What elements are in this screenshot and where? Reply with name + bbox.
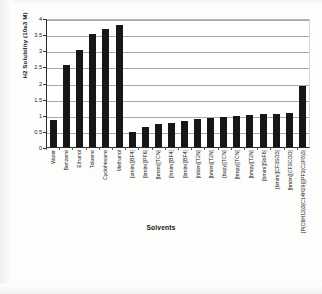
x-axis-tick-label: [bmim][TCN]: [155, 150, 161, 179]
x-axis-tick-mark: [152, 147, 153, 150]
bar: [207, 118, 214, 147]
bar: [63, 65, 70, 147]
bar-slot: [257, 20, 270, 147]
bar-slot: [230, 20, 243, 147]
bar: [260, 114, 267, 147]
x-axis-tick-mark: [165, 147, 166, 150]
x-axis-tick-label: [bmim][BF4]: [182, 150, 188, 178]
x-axis-tick-label: [omim][BF4]: [129, 150, 135, 178]
x-axis-tick-mark: [218, 147, 219, 150]
bar: [102, 29, 109, 147]
bar-slot: [126, 20, 139, 147]
bar: [286, 113, 293, 147]
x-axis-tick-mark: [72, 147, 73, 150]
plot-area: [46, 19, 310, 148]
x-axis-tick-label: Ethanol: [76, 150, 82, 168]
x-axis-tick-label: [hmim][BF4]: [168, 150, 174, 178]
x-axis-tick-label: [bupy][TCN]: [221, 150, 227, 178]
chart-figure: H2 Solubility (10e3 M) 00.511.522.533.54…: [0, 0, 322, 294]
x-axis-tick-mark: [244, 147, 245, 150]
bar: [246, 115, 253, 147]
bar-slot: [86, 20, 99, 147]
x-axis-tick-label: [P(C6H13)3(C14H29)][PF3(C2F5)3]: [300, 150, 306, 233]
bar: [155, 124, 162, 147]
x-axis-tick-label: [bmpy][T2N]: [248, 150, 254, 178]
y-axis-tick-label: 0.5: [20, 129, 42, 135]
bar-slot: [270, 20, 283, 147]
x-axis-tick-label: Water: [50, 150, 56, 164]
bar: [194, 119, 201, 147]
x-axis-tick-mark: [86, 147, 87, 150]
x-axis-tick-mark: [46, 147, 47, 150]
x-axis-tick-label: [mbim][T2N]: [195, 150, 201, 178]
bar: [50, 120, 57, 147]
bar: [181, 121, 188, 147]
bar-slot: [73, 20, 86, 147]
x-axis-tick-label: [bmim][CF3SO3]: [274, 150, 280, 189]
bar-slot: [139, 20, 152, 147]
y-axis-tick-label: 2.5: [20, 64, 42, 70]
bar: [220, 117, 227, 147]
y-axis-tick-label: 4: [20, 16, 42, 22]
bar-slot: [165, 20, 178, 147]
bar-slot: [112, 20, 125, 147]
x-axis-tick-mark: [257, 147, 258, 150]
x-axis-tick-label: Toluene: [89, 150, 95, 168]
bar-slot: [243, 20, 256, 147]
bar: [129, 132, 136, 147]
bar-slot: [217, 20, 230, 147]
y-axis-tick-label: 2: [20, 81, 42, 87]
x-axis-tick-label: Benzene: [63, 150, 69, 171]
x-axis-tick-mark: [297, 147, 298, 150]
bar: [273, 114, 280, 147]
x-axis-tick-mark: [112, 147, 113, 150]
x-axis-tick-mark: [125, 147, 126, 150]
x-axis-tick-mark: [99, 147, 100, 150]
bar-slot: [296, 20, 309, 147]
x-axis-tick-mark: [284, 147, 285, 150]
y-axis-tick-label: 1: [20, 113, 42, 119]
bar: [299, 86, 306, 147]
x-axis-tick-label: [bmim][T2N]: [208, 150, 214, 178]
x-axis-tick-mark: [178, 147, 179, 150]
bar: [116, 25, 123, 147]
x-axis-tick-label: Cyclohexane: [102, 150, 108, 180]
bar-slot: [47, 20, 60, 147]
bar-slot: [99, 20, 112, 147]
x-axis-tick-label: [bmim][PF6]: [142, 150, 148, 178]
y-axis-tick-label: 3.5: [20, 32, 42, 38]
bar-series: [47, 20, 309, 147]
x-axis-tick-label: [bmim][SbF6]: [261, 150, 267, 181]
x-axis-tick-mark: [270, 147, 271, 150]
y-axis-tick-label: 1.5: [20, 97, 42, 103]
bar: [76, 50, 83, 147]
x-axis-tick-label: [bmim][CF3COO]: [287, 150, 293, 190]
bar: [142, 127, 149, 147]
x-axis-title: Solvents: [0, 224, 322, 231]
x-axis-tick-mark: [204, 147, 205, 150]
x-axis-tick-label: Methanol: [116, 150, 122, 171]
bar-slot: [191, 20, 204, 147]
x-axis-tick-mark: [191, 147, 192, 150]
bar: [168, 123, 175, 147]
bar-slot: [283, 20, 296, 147]
bar-slot: [204, 20, 217, 147]
x-axis-tick-label: [bmpy][TCN]: [234, 150, 240, 179]
bar-slot: [178, 20, 191, 147]
bar: [233, 116, 240, 147]
x-axis-tick-mark: [138, 147, 139, 150]
bar: [89, 34, 96, 147]
bar-slot: [152, 20, 165, 147]
x-axis-tick-mark: [59, 147, 60, 150]
bar-slot: [60, 20, 73, 147]
y-axis-tick-label: 0: [20, 145, 42, 151]
y-axis-tick-label: 3: [20, 48, 42, 54]
x-axis-tick-mark: [231, 147, 232, 150]
